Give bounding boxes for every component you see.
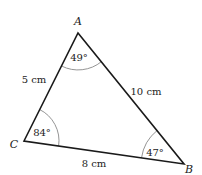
vertex-label-c: C [10,138,19,151]
triangle-abc [24,33,184,164]
vertex-label-a: A [73,15,82,28]
angle-label-a: 49° [70,52,88,63]
side-label-ac: 5 cm [22,74,47,85]
triangle-diagram: A B C 49° 84° 47° 5 cm 10 cm 8 cm [0,0,202,175]
angle-label-c: 84° [33,127,51,138]
side-label-ab: 10 cm [131,86,163,97]
side-label-cb: 8 cm [82,158,107,169]
vertex-label-b: B [184,163,193,175]
angle-label-b: 47° [146,147,164,158]
